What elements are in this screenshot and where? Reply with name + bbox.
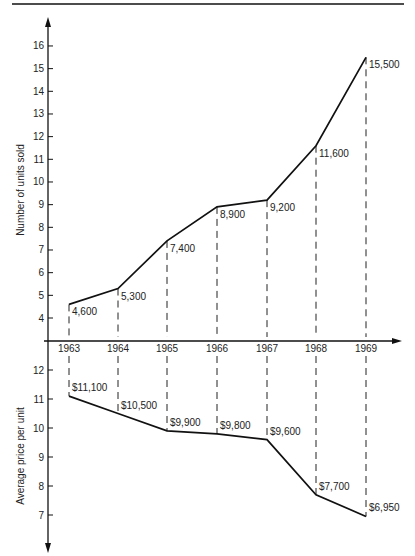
y-axis-up-arrow-icon: [45, 17, 51, 27]
y-tick-label: 5: [38, 290, 44, 301]
units-data-label: 5,300: [121, 291, 146, 302]
x-tick-label: 1963: [58, 343, 81, 354]
price-line: [69, 396, 366, 516]
x-tick-label: 1964: [107, 343, 130, 354]
x-tick-label: 1965: [156, 343, 179, 354]
units-data-label: 7,400: [170, 243, 195, 254]
units-data-label: 9,200: [270, 202, 295, 213]
price-data-label: $7,700: [319, 481, 350, 492]
dual-line-chart: 45678910111213141516 789101112 196319641…: [0, 0, 415, 556]
y-tick-label: 4: [38, 313, 44, 324]
y-tick-label: 8: [38, 222, 44, 233]
x-tick-label: 1968: [305, 343, 328, 354]
bottom-y-axis-label: Average price per unit: [15, 407, 26, 505]
top-y-axis-label: Number of units sold: [15, 144, 26, 236]
bottom-y-ticks: 789101112: [33, 365, 53, 521]
series-lines: [69, 57, 366, 516]
price-data-label: $9,600: [270, 426, 301, 437]
y-tick-label: 10: [33, 176, 45, 187]
x-tick-label: 1966: [206, 343, 229, 354]
y-tick-label: 11: [34, 154, 45, 165]
top-y-ticks: 45678910111213141516: [33, 40, 53, 323]
y-tick-label: 10: [33, 423, 45, 434]
price-data-label: $9,800: [220, 420, 251, 431]
y-tick-label: 14: [33, 86, 45, 97]
price-data-label: $11,100: [72, 382, 108, 393]
y-tick-label: 9: [38, 452, 44, 463]
y-axis-down-arrow-icon: [45, 543, 51, 553]
price-data-label: $10,500: [121, 400, 158, 411]
y-tick-label: 7: [38, 244, 44, 255]
price-data-label: $9,900: [170, 417, 201, 428]
price-data-label: $6,950: [369, 502, 400, 513]
y-tick-label: 12: [33, 365, 45, 376]
y-tick-label: 9: [38, 199, 44, 210]
x-axis-right-arrow-icon: [392, 338, 402, 344]
units-data-label: 4,600: [72, 306, 97, 317]
y-tick-label: 6: [38, 267, 44, 278]
x-tick-label: 1969: [355, 343, 378, 354]
units-data-label: 8,900: [220, 209, 245, 220]
dashed-drop-lines: [69, 57, 366, 516]
y-tick-label: 8: [38, 481, 44, 492]
x-year-labels: 1963196419651966196719681969: [58, 343, 378, 354]
units-data-label: 11,600: [319, 148, 349, 159]
y-tick-label: 7: [38, 510, 44, 521]
y-tick-label: 12: [33, 131, 45, 142]
y-tick-label: 13: [33, 108, 45, 119]
y-tick-label: 16: [33, 40, 45, 51]
y-tick-label: 11: [34, 394, 45, 405]
units-data-label: 15,500: [369, 59, 400, 70]
x-tick-label: 1967: [256, 343, 279, 354]
y-tick-label: 15: [33, 63, 45, 74]
